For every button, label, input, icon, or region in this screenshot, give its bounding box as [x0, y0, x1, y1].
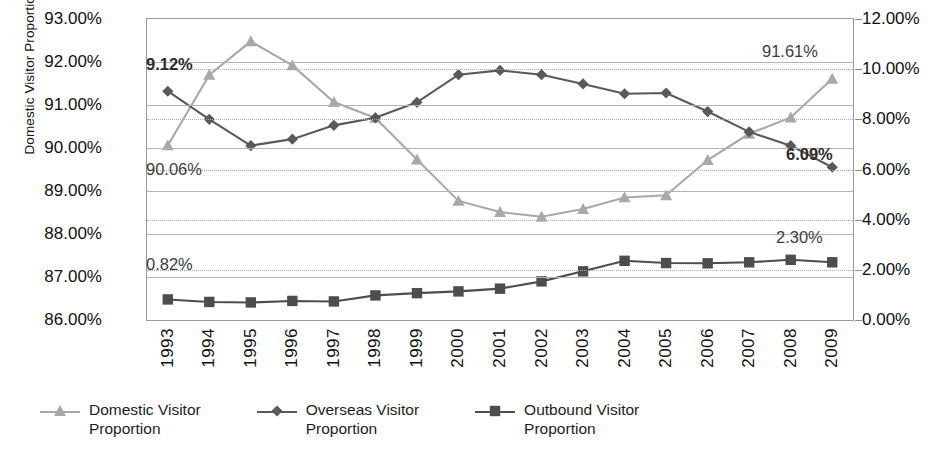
y-axis-left-tick: 89.00%	[44, 182, 102, 199]
y-axis-left-tick: 92.00%	[44, 53, 102, 70]
chart-legend: Domestic VisitorProportionOverseas Visit…	[40, 400, 920, 450]
x-axis-tick: 2006	[699, 328, 717, 368]
y-axis-right-tick: 6.00%	[862, 161, 910, 178]
y-axis-right-tickmark	[855, 170, 862, 171]
legend-overseas[interactable]: Overseas VisitorProportion	[257, 400, 419, 438]
y-axis-right-tick: 10.00%	[862, 60, 920, 77]
y-axis-right-tickmark	[855, 69, 862, 70]
y-axis-left-tick: 90.00%	[44, 139, 102, 156]
y-axis-left-tick: 86.00%	[44, 311, 102, 328]
x-axis-tick: 2000	[449, 328, 467, 368]
x-axis-tick: 1998	[366, 328, 384, 368]
chart-container: Domestic Visitor Proportion 93.00%92.00%…	[0, 0, 940, 455]
x-axis-tick: 2003	[574, 328, 592, 368]
plot-area	[146, 18, 854, 321]
annotation-domestic-end: 91.61%	[762, 42, 818, 61]
x-axis-tick: 1999	[408, 328, 426, 368]
series-square	[163, 255, 838, 308]
x-axis-tick: 2001	[491, 328, 509, 368]
annotation-domestic-start: 90.06%	[146, 160, 202, 179]
x-axis-tick: 1994	[200, 328, 218, 368]
x-axis-tick: 1996	[283, 328, 301, 368]
legend-label: Overseas VisitorProportion	[306, 400, 419, 438]
series-triangle	[162, 35, 838, 221]
y-axis-right-tick: 4.00%	[862, 211, 910, 228]
x-axis-tick: 1997	[325, 328, 343, 368]
x-axis-tick: 2007	[740, 328, 758, 368]
y-axis-right-tick: 12.00%	[862, 10, 920, 27]
gridline-secondary	[147, 69, 853, 70]
y-axis-left-title: Domestic Visitor Proportion	[22, 0, 37, 197]
gridline-secondary	[147, 119, 853, 120]
y-axis-left-tick: 93.00%	[44, 10, 102, 27]
y-axis-left-tick: 87.00%	[44, 268, 102, 285]
gridline	[147, 191, 853, 192]
diamond-icon	[257, 403, 297, 420]
x-axis-tick: 1995	[242, 328, 260, 368]
gridline	[147, 148, 853, 149]
y-axis-right-tickmark	[855, 270, 862, 271]
x-axis-tick: 2004	[616, 328, 634, 368]
x-axis-tick: 2005	[657, 328, 675, 368]
gridline	[147, 62, 853, 63]
legend-label: Outbound VisitorProportion	[524, 400, 639, 438]
triangle-icon	[40, 403, 80, 420]
y-axis-right-tick: 0.00%	[862, 311, 910, 328]
annotation-outbound-end: 2.30%	[776, 228, 823, 247]
gridline	[147, 277, 853, 278]
annotation-outbound-start: 0.82%	[146, 255, 193, 274]
legend-label: Domestic VisitorProportion	[89, 400, 201, 438]
gridline	[147, 105, 853, 106]
annotation-overseas-end: 6.09%	[786, 145, 833, 164]
y-axis-right-tickmark	[855, 320, 862, 321]
gridline-secondary	[147, 170, 853, 171]
gridline-secondary	[147, 220, 853, 221]
x-axis-tick: 2009	[823, 328, 841, 368]
x-axis-tick: 2002	[533, 328, 551, 368]
x-axis-tick: 2008	[782, 328, 800, 368]
annotation-overseas-start: 9.12%	[146, 55, 193, 74]
y-axis-left-tick: 91.00%	[44, 96, 102, 113]
y-axis-right-tick: 8.00%	[862, 110, 910, 127]
y-axis-right-tickmark	[855, 19, 862, 20]
legend-outbound[interactable]: Outbound VisitorProportion	[475, 400, 639, 438]
gridline	[147, 234, 853, 235]
y-axis-left-tick: 88.00%	[44, 225, 102, 242]
y-axis-right-tickmark	[855, 220, 862, 221]
legend-domestic[interactable]: Domestic VisitorProportion	[40, 400, 201, 438]
gridline-secondary	[147, 270, 853, 271]
square-icon	[475, 403, 515, 420]
x-axis-tick: 1993	[159, 328, 177, 368]
y-axis-right-tickmark	[855, 119, 862, 120]
y-axis-right-tick: 2.00%	[862, 261, 910, 278]
